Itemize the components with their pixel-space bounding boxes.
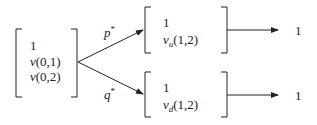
left-bracket [145,7,151,53]
left-bracket [145,72,151,117]
edge-label-p: p* [103,24,116,40]
tree-diagram: 1 v(0,1) v(0,2) p* q* 1 vu(1,2) 1 vd(1,2… [0,0,317,125]
left-bracket [16,29,22,97]
right-bracket [221,7,227,53]
root-entry-3: v(0,2) [30,69,61,84]
edge-up-arrow [78,30,143,62]
down-state-vector: 1 vd(1,2) [145,72,227,117]
up-entry-2: vu(1,2) [163,32,198,49]
root-entry-2: v(0,1) [30,54,61,69]
up-state-vector: 1 vu(1,2) [145,7,227,53]
up-entry-1: 1 [163,15,170,30]
root-vector: 1 v(0,1) v(0,2) [16,29,77,97]
edge-label-q: q* [104,86,116,102]
right-bracket [71,29,77,97]
output-up-value: 1 [295,23,302,38]
output-down-value: 1 [295,88,302,103]
root-entry-1: 1 [30,38,37,53]
down-entry-2: vd(1,2) [163,97,198,114]
right-bracket [221,72,227,117]
down-entry-1: 1 [163,80,170,95]
